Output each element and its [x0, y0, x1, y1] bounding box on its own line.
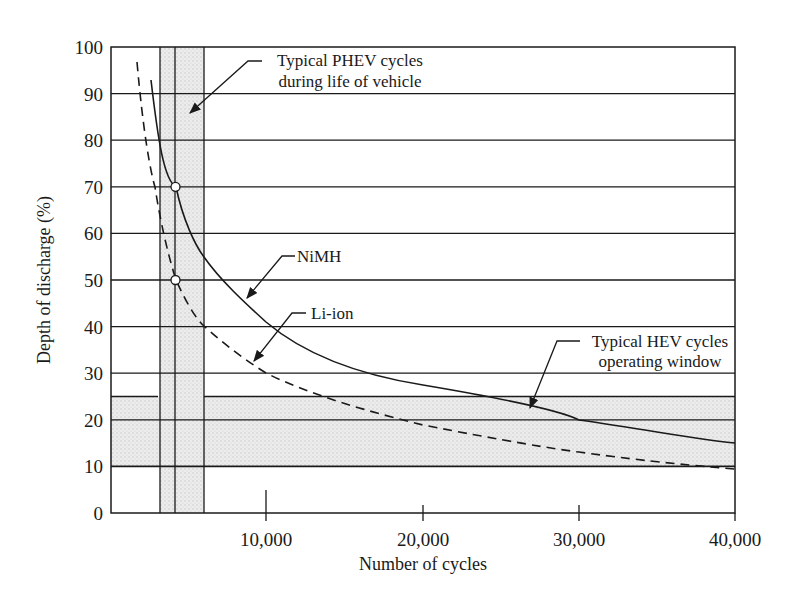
y-tick-10: 10: [84, 456, 103, 477]
nimh-arrow: [247, 256, 295, 298]
phev-annotation-line1: Typical PHEV cycles: [277, 51, 423, 70]
y-tick-80: 80: [84, 130, 103, 151]
li-ion-arrow: [254, 313, 306, 361]
y-tick-50: 50: [84, 270, 103, 291]
li-ion-label: Li-ion: [311, 304, 354, 323]
x-tick-30000: 30,000: [553, 529, 605, 550]
y-tick-40: 40: [84, 317, 103, 338]
x-axis-tick-labels: 10,000 20,000 30,000 40,000: [240, 529, 761, 550]
y-tick-30: 30: [84, 363, 103, 384]
y-tick-70: 70: [84, 177, 103, 198]
x-tick-marks: [266, 490, 735, 521]
phev-annotation-line2: during life of vehicle: [278, 72, 421, 91]
x-tick-40000: 40,000: [709, 529, 761, 550]
x-axis-title: Number of cycles: [359, 554, 487, 574]
nimh-curve: [151, 80, 735, 443]
y-tick-100: 100: [75, 37, 104, 58]
x-tick-10000: 10,000: [240, 529, 292, 550]
y-tick-90: 90: [84, 84, 103, 105]
y-axis-tick-labels: 0 10 20 30 40 50 60 70 80 90 100: [75, 37, 104, 524]
y-tick-20: 20: [84, 410, 103, 431]
li-ion-marker-50: [171, 276, 180, 285]
y-tick-0: 0: [94, 503, 104, 524]
nimh-label: NiMH: [297, 247, 341, 266]
y-tick-60: 60: [84, 223, 103, 244]
hev-annotation-line2: operating window: [598, 352, 722, 371]
hev-annotation-line1: Typical HEV cycles: [592, 332, 728, 351]
annotation-arrows: [190, 61, 580, 408]
nimh-marker-70: [171, 182, 180, 191]
y-axis-title: Depth of discharge (%): [34, 196, 55, 364]
depth-of-discharge-chart: 0 10 20 30 40 50 60 70 80 90 100 10,000 …: [0, 0, 798, 601]
x-tick-20000: 20,000: [397, 529, 449, 550]
